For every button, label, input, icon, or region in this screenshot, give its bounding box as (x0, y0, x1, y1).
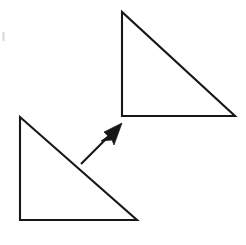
edge-speck-artifact (3, 32, 5, 41)
figure-root: Translation of a right triangle Two cong… (0, 0, 246, 245)
translation-diagram-canvas (0, 0, 246, 245)
